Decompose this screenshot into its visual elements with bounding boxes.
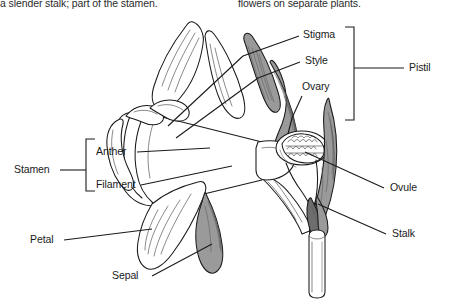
label-petal: Petal xyxy=(30,233,53,245)
label-anther: Anther xyxy=(96,145,126,157)
label-ovary: Ovary xyxy=(302,80,330,92)
leader-ovary xyxy=(292,96,302,118)
flower-anatomy-illustration xyxy=(0,0,454,302)
flower-artwork xyxy=(107,22,337,298)
label-ovule: Ovule xyxy=(390,181,417,193)
label-stamen: Stamen xyxy=(14,163,50,175)
label-filament: Filament xyxy=(96,178,135,190)
bracket-pistil xyxy=(345,27,354,120)
bracket-stamen xyxy=(86,139,95,191)
label-style: Style xyxy=(305,54,328,66)
diagram-page: a slender stalk; part of the stamen. flo… xyxy=(0,0,454,302)
petal-upper-tall xyxy=(205,31,245,119)
label-stalk: Stalk xyxy=(392,227,415,239)
tepal-lower-right xyxy=(262,178,312,234)
label-pistil: Pistil xyxy=(409,61,431,73)
label-stigma: Stigma xyxy=(303,28,335,40)
petal-upper-back xyxy=(152,22,203,110)
stalk xyxy=(309,230,325,298)
label-sepal: Sepal xyxy=(112,269,138,281)
